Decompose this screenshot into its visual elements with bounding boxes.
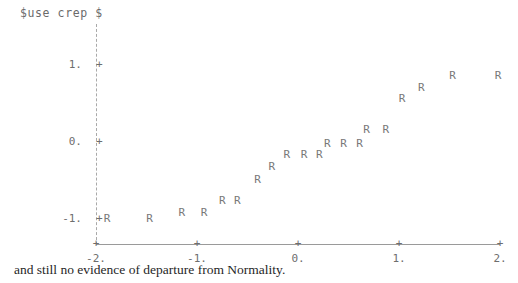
data-point: R — [356, 137, 363, 148]
x-tick-label: 2. — [493, 253, 506, 264]
x-tick-label: 0. — [291, 253, 304, 264]
y-tick-mark: + — [96, 213, 103, 224]
data-point: R — [284, 149, 291, 160]
data-point: R — [201, 207, 208, 218]
data-point: R — [104, 213, 111, 224]
data-point: R — [383, 124, 390, 135]
plot-title: $use crep $ — [20, 6, 103, 20]
x-tick-mark: + — [93, 238, 100, 249]
y-tick-label: -1. — [62, 213, 82, 224]
x-tick-mark: + — [497, 238, 504, 249]
data-point: R — [399, 93, 406, 104]
data-point: R — [268, 161, 275, 172]
y-tick-label: 0. — [69, 136, 82, 147]
data-point: R — [316, 149, 323, 160]
data-point: R — [340, 137, 347, 148]
data-point: R — [234, 194, 241, 205]
data-point: R — [363, 124, 370, 135]
screenshot-page: $use crep $ -1.+0.+1.+ +-2.+-1.+0.+1.+2.… — [0, 0, 518, 283]
x-tick-mark: + — [295, 238, 302, 249]
y-tick-mark: + — [96, 59, 103, 70]
data-point: R — [179, 207, 186, 218]
data-point: R — [495, 70, 502, 81]
x-tick-mark: + — [396, 238, 403, 249]
x-tick-mark: + — [194, 238, 201, 249]
data-point: R — [324, 137, 331, 148]
data-point: R — [418, 82, 425, 93]
y-tick-mark: + — [96, 136, 103, 147]
data-point: R — [301, 149, 308, 160]
data-point: R — [449, 70, 456, 81]
figure-caption: and still no evidence of departure from … — [14, 262, 285, 278]
y-tick-label: 1. — [69, 59, 82, 70]
data-point: R — [219, 194, 226, 205]
scatter-plot: $use crep $ -1.+0.+1.+ +-2.+-1.+0.+1.+2.… — [0, 0, 518, 260]
x-tick-label: 1. — [392, 253, 405, 264]
data-point: R — [254, 174, 261, 185]
data-point: R — [146, 213, 153, 224]
